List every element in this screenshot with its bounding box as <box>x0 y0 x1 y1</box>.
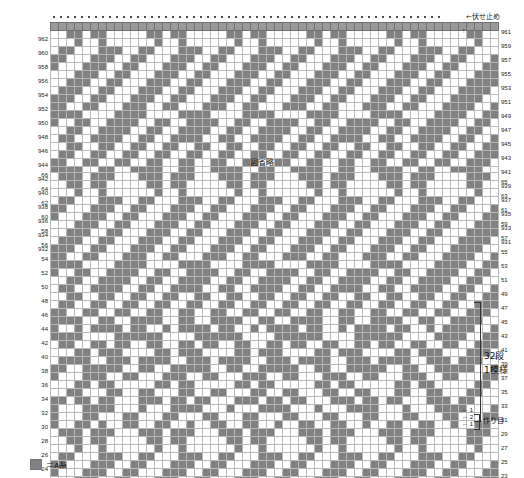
chart-cell[interactable] <box>219 413 227 421</box>
chart-cell[interactable] <box>379 87 387 95</box>
chart-cell[interactable] <box>155 453 163 461</box>
chart-cell[interactable] <box>219 461 227 469</box>
chart-cell[interactable] <box>307 63 315 71</box>
chart-cell[interactable] <box>139 213 147 221</box>
chart-cell[interactable] <box>467 55 475 63</box>
chart-cell[interactable] <box>491 229 499 237</box>
chart-cell[interactable] <box>235 349 243 357</box>
chart-cell[interactable] <box>203 245 211 253</box>
chart-cell[interactable] <box>99 365 107 373</box>
chart-cell[interactable] <box>491 111 499 119</box>
chart-cell[interactable] <box>411 47 419 55</box>
chart-cell[interactable] <box>155 31 163 39</box>
chart-cell[interactable] <box>379 285 387 293</box>
chart-cell[interactable] <box>387 87 395 95</box>
chart-cell[interactable] <box>387 325 395 333</box>
chart-cell[interactable] <box>259 79 267 87</box>
chart-cell[interactable] <box>163 71 171 79</box>
chart-cell[interactable] <box>59 325 67 333</box>
chart-cell[interactable] <box>491 397 499 405</box>
chart-cell[interactable] <box>139 333 147 341</box>
chart-cell[interactable] <box>147 87 155 95</box>
chart-cell[interactable] <box>483 389 491 397</box>
chart-cell[interactable] <box>187 79 195 87</box>
chart-cell[interactable] <box>155 135 163 143</box>
chart-cell[interactable] <box>83 389 91 397</box>
chart-cell[interactable] <box>419 429 427 437</box>
chart-cell[interactable] <box>147 31 155 39</box>
chart-cell[interactable] <box>443 325 451 333</box>
chart-cell[interactable] <box>139 111 147 119</box>
chart-cell[interactable] <box>483 87 491 95</box>
chart-cell[interactable] <box>171 293 179 301</box>
chart-cell[interactable] <box>339 47 347 55</box>
chart-cell[interactable] <box>163 317 171 325</box>
chart-cell[interactable] <box>155 63 163 71</box>
chart-cell[interactable] <box>435 413 443 421</box>
chart-cell[interactable] <box>75 309 83 317</box>
chart-cell[interactable] <box>59 237 67 245</box>
chart-cell[interactable] <box>227 341 235 349</box>
chart-cell[interactable] <box>155 277 163 285</box>
chart-cell[interactable] <box>299 373 307 381</box>
chart-cell[interactable] <box>483 245 491 253</box>
chart-cell[interactable] <box>179 103 187 111</box>
chart-cell[interactable] <box>163 309 171 317</box>
chart-cell[interactable] <box>163 365 171 373</box>
chart-cell[interactable] <box>435 135 443 143</box>
chart-cell[interactable] <box>107 405 115 413</box>
chart-cell[interactable] <box>379 293 387 301</box>
chart-cell[interactable] <box>355 229 363 237</box>
chart-cell[interactable] <box>51 261 59 269</box>
chart-cell[interactable] <box>347 197 355 205</box>
chart-cell[interactable] <box>243 181 251 189</box>
chart-cell[interactable] <box>59 31 67 39</box>
chart-cell[interactable] <box>267 143 275 151</box>
chart-cell[interactable] <box>491 461 499 469</box>
chart-cell[interactable] <box>107 205 115 213</box>
chart-cell[interactable] <box>363 405 371 413</box>
chart-cell[interactable] <box>467 71 475 79</box>
chart-cell[interactable] <box>131 55 139 63</box>
chart-cell[interactable] <box>443 461 451 469</box>
chart-cell[interactable] <box>275 285 283 293</box>
chart-cell[interactable] <box>419 47 427 55</box>
chart-cell[interactable] <box>387 173 395 181</box>
chart-cell[interactable] <box>227 389 235 397</box>
chart-cell[interactable] <box>451 413 459 421</box>
chart-cell[interactable] <box>211 269 219 277</box>
chart-cell[interactable] <box>275 341 283 349</box>
chart-cell[interactable] <box>435 349 443 357</box>
chart-cell[interactable] <box>115 173 123 181</box>
chart-cell[interactable] <box>395 245 403 253</box>
chart-cell[interactable] <box>99 253 107 261</box>
chart-cell[interactable] <box>99 111 107 119</box>
chart-cell[interactable] <box>139 357 147 365</box>
chart-cell[interactable] <box>131 325 139 333</box>
chart-cell[interactable] <box>67 381 75 389</box>
chart-cell[interactable] <box>51 197 59 205</box>
chart-cell[interactable] <box>67 269 75 277</box>
chart-cell[interactable] <box>475 237 483 245</box>
chart-cell[interactable] <box>59 205 67 213</box>
chart-cell[interactable] <box>443 71 451 79</box>
chart-cell[interactable] <box>395 413 403 421</box>
chart-cell[interactable] <box>459 445 467 453</box>
chart-cell[interactable] <box>67 341 75 349</box>
chart-cell[interactable] <box>187 269 195 277</box>
chart-cell[interactable] <box>211 127 219 135</box>
chart-cell[interactable] <box>371 277 379 285</box>
chart-cell[interactable] <box>235 397 243 405</box>
chart-cell[interactable] <box>395 445 403 453</box>
chart-cell[interactable] <box>283 173 291 181</box>
chart-cell[interactable] <box>491 389 499 397</box>
chart-cell[interactable] <box>83 205 91 213</box>
chart-cell[interactable] <box>315 277 323 285</box>
chart-cell[interactable] <box>195 55 203 63</box>
chart-cell[interactable] <box>283 429 291 437</box>
chart-cell[interactable] <box>51 95 59 103</box>
chart-cell[interactable] <box>163 39 171 47</box>
chart-cell[interactable] <box>291 261 299 269</box>
chart-cell[interactable] <box>331 95 339 103</box>
chart-cell[interactable] <box>299 269 307 277</box>
